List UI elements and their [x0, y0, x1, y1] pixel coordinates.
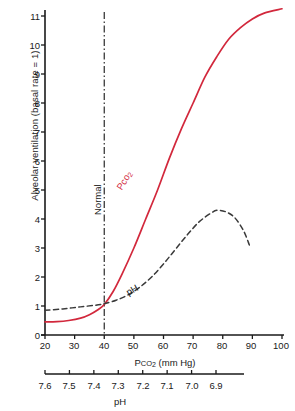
x-tick-label: 40: [89, 340, 119, 351]
y-tick-label: 6: [18, 156, 40, 167]
y-tick-label: 3: [18, 243, 40, 254]
x-axis-title-units: (mm Hg): [156, 357, 196, 368]
x-tick-label: 60: [148, 340, 178, 351]
y-tick-label: 2: [18, 272, 40, 283]
x-tick-label: 70: [177, 340, 207, 351]
x-tick-label: 90: [236, 340, 266, 351]
x-tick-label: 80: [207, 340, 237, 351]
x-axis-title-co: CO: [141, 359, 152, 368]
ph-tick-label: 6.9: [201, 380, 231, 391]
x-tick-label: 20: [30, 340, 60, 351]
y-tick-label: 7: [18, 127, 40, 138]
x-tick-label: 100: [266, 340, 295, 351]
series-pco2-curve: [45, 9, 282, 322]
x-tick-label: 50: [118, 340, 148, 351]
series-ph-curve: [45, 210, 249, 310]
y-tick-label: 8: [18, 98, 40, 109]
x-tick-label: 30: [59, 340, 89, 351]
y-tick-label: 4: [18, 214, 40, 225]
y-tick-label: 1: [18, 301, 40, 312]
y-tick-label: 10: [18, 40, 40, 51]
ph-axis-title: pH: [90, 396, 150, 407]
y-tick-label: 5: [18, 185, 40, 196]
y-tick-label: 9: [18, 69, 40, 80]
x-axis-title: PCO2 (mm Hg): [105, 357, 225, 368]
normal-annotation-label: Normal: [92, 184, 103, 215]
chart-figure: Alveolar ventilation (basal rate = 1) 11…: [0, 0, 295, 411]
y-tick-label: 11: [18, 11, 40, 22]
